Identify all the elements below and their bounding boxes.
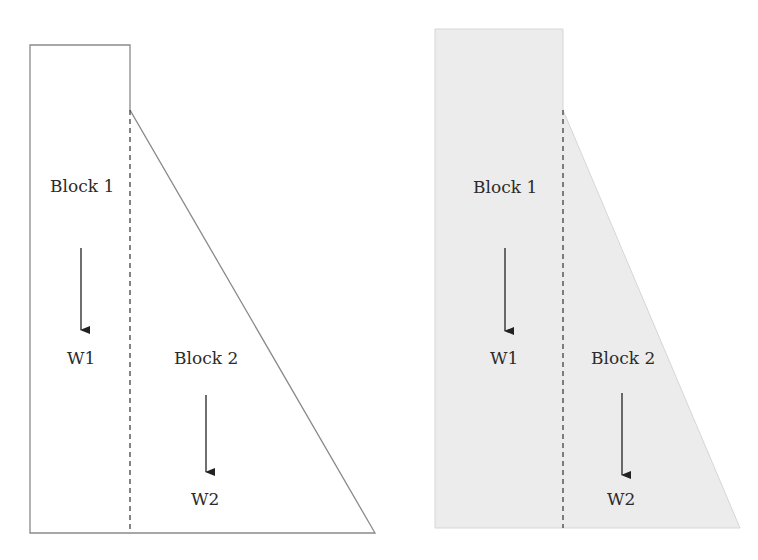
dam-diagram: Block 1 W1 Block 2 W2 Block 1 W1 Block 2… (0, 0, 758, 560)
right-block2-label: Block 2 (591, 348, 655, 368)
left-block2-label: Block 2 (174, 348, 238, 368)
left-block1-label: Block 1 (50, 176, 114, 196)
right-w1-label: W1 (490, 348, 518, 368)
left-dam-outline (30, 45, 375, 533)
right-dam-shaded (435, 29, 740, 528)
left-figure: Block 1 W1 Block 2 W2 (30, 45, 375, 533)
right-block1-label: Block 1 (473, 177, 537, 197)
left-w2-label: W2 (191, 489, 219, 509)
left-w1-label: W1 (67, 348, 95, 368)
right-w2-label: W2 (607, 489, 635, 509)
right-figure: Block 1 W1 Block 2 W2 (435, 29, 740, 528)
